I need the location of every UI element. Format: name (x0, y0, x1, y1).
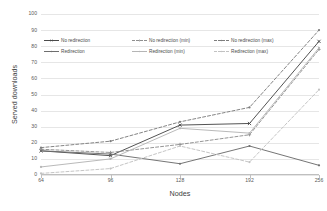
y-tick-label: 90 (31, 28, 37, 33)
data-point-marker (179, 163, 181, 165)
legend-swatch-icon (132, 48, 147, 54)
data-point-marker (109, 158, 111, 160)
data-point-marker (40, 147, 42, 149)
legend-item[interactable]: No redirection (min) (132, 37, 190, 43)
line-chart: 0102030405060708090100 Served downloads … (0, 0, 327, 211)
y-tick-label: 20 (31, 140, 37, 145)
data-point-marker (109, 167, 111, 169)
data-point-marker (248, 106, 250, 108)
legend-label: No redirection (max) (231, 38, 273, 43)
data-point-marker (318, 29, 320, 31)
x-tick-label: 128 (176, 178, 185, 183)
x-axis-tick-labels: 6496128192256 (41, 178, 319, 187)
chart-legend: No redirectionNo redirection (min)No red… (44, 37, 294, 58)
y-tick-label: 40 (31, 108, 37, 113)
data-point-marker (318, 164, 320, 166)
data-point-marker (40, 166, 42, 168)
legend-label: No redirection (min) (149, 38, 190, 43)
data-point-marker (109, 153, 111, 155)
legend-swatch-icon (44, 48, 59, 54)
y-tick-label: 0 (34, 172, 37, 177)
data-point-marker (248, 145, 250, 147)
legend-item[interactable]: Redirection (44, 48, 85, 54)
data-point-marker (318, 47, 320, 49)
series-redirection (40, 145, 320, 167)
series-redirection-min (40, 47, 320, 168)
y-axis-title: Served downloads (9, 14, 21, 175)
data-point-marker (317, 40, 320, 43)
legend-item[interactable]: Redirection (max) (214, 48, 268, 54)
legend-swatch-icon (214, 37, 229, 43)
legend-label: Redirection (min) (149, 49, 185, 54)
legend-swatch-icon (214, 48, 229, 54)
data-point-marker (40, 150, 42, 152)
series-line (41, 49, 319, 152)
series-line (41, 90, 319, 174)
y-tick-label: 60 (31, 76, 37, 81)
series-redirection-max (40, 89, 320, 175)
y-tick-label: 50 (31, 92, 37, 97)
data-point-marker (179, 127, 181, 129)
data-point-marker (109, 140, 111, 142)
data-point-marker (40, 172, 42, 174)
legend-swatch-icon (44, 37, 59, 43)
legend-item[interactable]: Redirection (min) (132, 48, 185, 54)
data-point-marker (248, 132, 250, 134)
data-point-marker (248, 161, 250, 163)
x-tick-label: 192 (245, 178, 254, 183)
data-point-marker (179, 145, 181, 147)
x-tick-label: 64 (38, 178, 44, 183)
data-point-marker (318, 89, 320, 91)
x-tick-label: 96 (108, 178, 114, 183)
legend-label: Redirection (61, 49, 85, 54)
legend-label: No redirection (61, 38, 90, 43)
x-axis-title: Nodes (41, 190, 319, 198)
data-point-marker (179, 121, 181, 123)
y-tick-label: 70 (31, 60, 37, 65)
series-line (41, 48, 319, 167)
legend-label: Redirection (max) (231, 49, 268, 54)
legend-item[interactable]: No redirection (max) (214, 37, 273, 43)
legend-swatch-icon (132, 37, 147, 43)
legend-item[interactable]: No redirection (44, 37, 90, 43)
y-tick-label: 30 (31, 124, 37, 129)
series-no-redirection-min (39, 48, 320, 154)
y-tick-label: 80 (31, 44, 37, 49)
y-tick-label: 100 (29, 11, 38, 16)
x-tick-label: 256 (315, 178, 324, 183)
y-tick-label: 10 (31, 156, 37, 161)
